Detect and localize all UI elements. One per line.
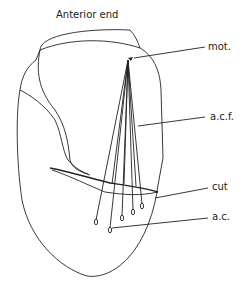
label-ac: a.c. (212, 211, 230, 222)
label-acf: a.c.f. (210, 111, 234, 122)
ciliary-bases (94, 203, 143, 233)
ciliary-fibers (96, 60, 142, 228)
label-mot: mot. (208, 41, 231, 52)
leader-mot (134, 47, 205, 58)
title-anterior-end: Anterior end (56, 9, 118, 20)
motorium (128, 57, 133, 61)
label-cut: cut (212, 181, 228, 192)
leader-acf (138, 117, 205, 126)
oral-groove-outer (38, 50, 90, 175)
leader-cut (155, 188, 208, 198)
leader-ac (112, 218, 208, 228)
anterior-cap-line (40, 41, 140, 50)
diagram-canvas: Anterior end mot. a.c.f. cut a.c. (0, 0, 244, 288)
body-outline (17, 30, 163, 277)
oral-groove-inner (20, 90, 88, 174)
